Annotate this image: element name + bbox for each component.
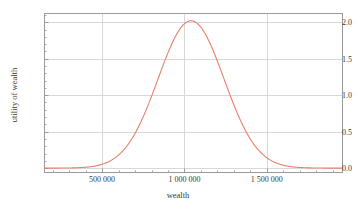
- y-tick-label: 2.0: [316, 18, 356, 27]
- y-tick-label: 1.5: [316, 54, 356, 63]
- grid-lines: [45, 14, 343, 173]
- x-tick-label: 1 000 000: [168, 175, 200, 184]
- x-axis-title: wealth: [0, 190, 356, 200]
- minor-tick-marks: [45, 16, 334, 173]
- y-tick-label: 0.5: [316, 127, 356, 136]
- data-series-curve: [45, 21, 343, 168]
- plot-frame: [45, 14, 343, 173]
- y-axis-title: utility of wealth: [9, 68, 19, 122]
- y-tick-label: 0.0: [316, 164, 356, 173]
- chart-container: 500 0001 000 0001 500 000 0.00.51.01.52.…: [0, 0, 356, 206]
- x-tick-label: 500 000: [89, 175, 115, 184]
- major-tick-marks: [45, 23, 268, 173]
- x-tick-label: 1 500 000: [251, 175, 283, 184]
- y-tick-label: 1.0: [316, 91, 356, 100]
